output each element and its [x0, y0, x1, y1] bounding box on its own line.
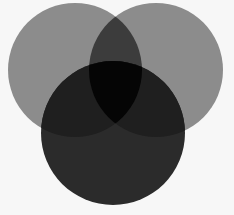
venn-diagram	[0, 0, 234, 215]
